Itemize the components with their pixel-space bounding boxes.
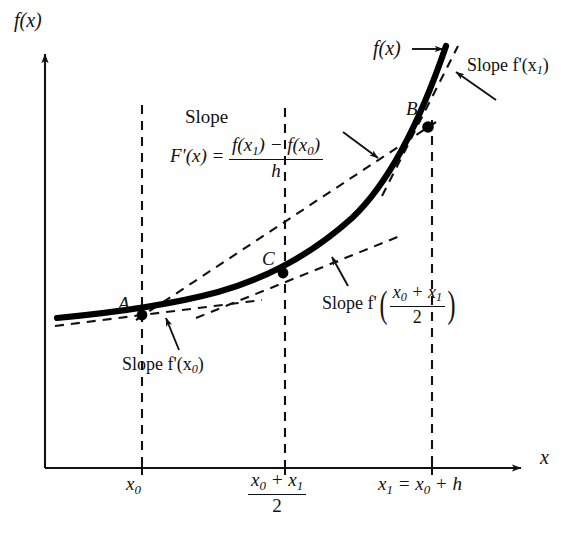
- tick-x1-eq: = x: [393, 473, 424, 494]
- secant-formula-lhs: F'(x) =: [170, 145, 224, 166]
- tick-mid-num-b-sub: 1: [297, 478, 303, 493]
- tangent-line-at-b: [382, 46, 458, 196]
- tick-x1-tail: + h: [430, 473, 462, 494]
- x-axis-label: x: [540, 447, 549, 468]
- slope-x0-close: ): [198, 354, 204, 374]
- secant-formula-numerator: f(x1) − f(x0): [229, 135, 323, 160]
- secant-slope-word: Slope: [185, 107, 228, 127]
- point-c-label: C: [262, 249, 275, 269]
- slope-mid-paren-close: ): [447, 287, 455, 323]
- point-c-marker: [278, 268, 289, 279]
- tangent-slope-at-x1-label: Slope f'(x1): [467, 56, 549, 77]
- tick-mid-numerator: x0 + x1: [248, 470, 306, 495]
- tick-mid-num-plus: + x: [266, 469, 297, 490]
- secant-formula-fraction: f(x1) − f(x0) h: [229, 135, 323, 181]
- point-a-marker: [137, 310, 148, 321]
- axes-group: [45, 54, 521, 468]
- tick-label-x0: x0: [126, 474, 141, 496]
- num-part-1: f(x: [232, 134, 252, 155]
- diagram-svg: [0, 0, 584, 537]
- slope-x1-text: Slope f'(x: [467, 55, 537, 75]
- curve-label: f(x): [373, 38, 401, 59]
- mid-num-plus: + x: [407, 282, 436, 302]
- slope-x0-text: Slope f'(x: [122, 354, 192, 374]
- num-part-3: ): [314, 134, 320, 155]
- slope-mid-fraction: x0 + x12: [390, 283, 445, 327]
- tick-mid-fraction: x0 + x12: [248, 470, 306, 516]
- function-curve: [57, 46, 446, 318]
- slope-x0-prefix: Slope f'(x: [122, 354, 192, 374]
- secant-slope-formula: F'(x) = f(x1) − f(x0) h: [170, 135, 323, 181]
- tick-label-x1: x1 = x0 + h: [378, 474, 462, 496]
- num-part-2: ) − f(x: [259, 134, 308, 155]
- tick-label-midpoint: x0 + x12: [248, 470, 306, 516]
- slope-mid-paren-open: (: [379, 287, 387, 323]
- point-b-label: B: [406, 99, 418, 119]
- y-axis-label: f(x): [14, 10, 42, 31]
- slope-mid-denominator: 2: [390, 307, 445, 327]
- arrow-formula-to-secant: [343, 132, 378, 158]
- tick-x0-sub: 0: [134, 482, 140, 497]
- mid-num-b-sub: 1: [436, 290, 442, 304]
- point-b-marker: [422, 121, 434, 133]
- arrow-to-tangent-a: [166, 318, 179, 350]
- arrow-to-tangent-c: [332, 257, 348, 286]
- figure-canvas: f(x) x f(x) A B C Slope F'(x) = f(x1) − …: [0, 0, 584, 537]
- slope-mid-prefix: Slope f': [322, 293, 377, 313]
- slope-mid-numerator: x0 + x1: [390, 283, 445, 307]
- secant-formula-denominator: h: [229, 160, 323, 182]
- tangent-slope-at-midpoint-label: Slope f'(x0 + x12): [322, 283, 458, 327]
- mid-num-a: x: [393, 282, 401, 302]
- point-a-label: A: [118, 294, 130, 314]
- tangent-slope-at-x0-label: Slope f'(x0): [122, 355, 204, 376]
- tick-mid-denominator: 2: [248, 495, 306, 517]
- slope-x1-close: ): [543, 55, 549, 75]
